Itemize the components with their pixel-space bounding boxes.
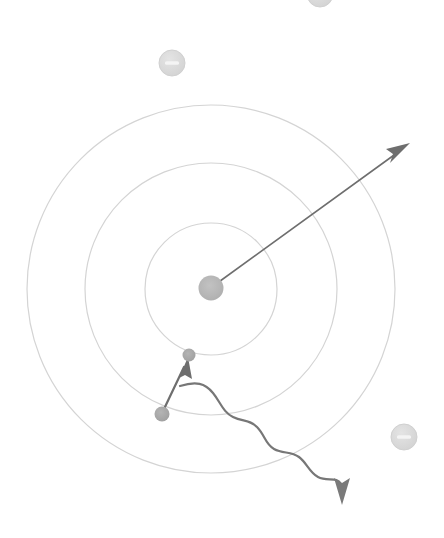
free-electron-upper-left xyxy=(159,50,185,76)
free-electron-upper-left-minus-sign xyxy=(165,61,179,65)
free-electron-lower-right xyxy=(391,424,417,450)
nucleus-outward-arrow-shaft xyxy=(216,150,401,284)
free-electron-top-partial xyxy=(307,0,333,7)
electron-upper-orbit-1 xyxy=(183,349,196,362)
electron-transition-arrow-shaft xyxy=(164,367,184,409)
electron-lower-orbit-2 xyxy=(155,407,170,422)
emitted-photon-wave xyxy=(180,383,350,505)
photon-wave-path xyxy=(180,383,341,484)
free-electron-lower-right-minus-sign xyxy=(397,435,411,439)
nucleus-outward-arrowhead xyxy=(386,143,410,163)
nucleus xyxy=(199,276,224,301)
free-electron-top-partial-circle xyxy=(307,0,333,7)
diagram-canvas xyxy=(0,0,444,538)
nucleus-outward-arrow xyxy=(216,143,410,284)
photon-emission-arrowhead xyxy=(334,478,350,505)
atom-diagram xyxy=(0,0,444,538)
